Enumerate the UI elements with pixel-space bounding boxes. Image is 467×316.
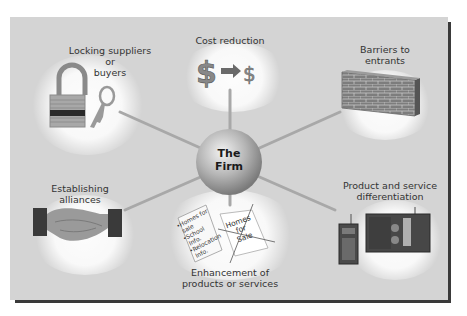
brick-wall-icon (342, 70, 420, 116)
label-barriers-line2: entrants (340, 55, 430, 66)
documents-icon: •Homes for sale •School Info. •Relocatio… (175, 204, 275, 263)
label-alliances-line2: alliances (35, 194, 125, 205)
label-barriers-line1: Barriers to (340, 44, 430, 55)
svg-text:$: $ (196, 55, 217, 90)
label-enhancement: Enhancement of products or services (170, 267, 290, 289)
label-cost: Cost reduction (180, 35, 280, 46)
label-alliances: Establishing alliances (35, 183, 125, 205)
center-label-line1: The (204, 147, 254, 160)
radios-icon (339, 207, 430, 264)
label-enhancement-line2: products or services (170, 278, 290, 289)
dollar-to-dollar-icon: $ $ (196, 55, 256, 90)
label-locking-line1: Locking suppliers (55, 45, 165, 56)
label-locking: Locking suppliers or buyers (55, 45, 165, 78)
label-alliances-line1: Establishing (35, 183, 125, 194)
label-locking-line3: buyers (55, 67, 165, 78)
label-differentiation-line2: differentiation (335, 191, 445, 202)
center-label: The Firm (204, 147, 254, 173)
label-differentiation: Product and service differentiation (335, 180, 445, 202)
handshake-icon (33, 208, 122, 241)
svg-text:$: $ (243, 62, 256, 86)
label-cost-line1: Cost reduction (180, 35, 280, 46)
label-enhancement-line1: Enhancement of (170, 267, 290, 278)
center-label-line2: Firm (204, 160, 254, 173)
label-locking-line2: or (55, 56, 165, 67)
label-barriers: Barriers to entrants (340, 44, 430, 66)
label-differentiation-line1: Product and service (335, 180, 445, 191)
